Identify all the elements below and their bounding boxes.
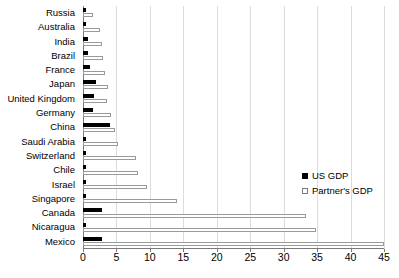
bar-us-gdp: [83, 223, 86, 227]
bar-partner-gdp: [83, 128, 115, 132]
category-label: Japan: [49, 77, 75, 91]
category-label: China: [50, 120, 75, 134]
legend-item: Partner's GDP: [302, 184, 373, 197]
bar-us-gdp: [83, 80, 96, 84]
category-label: Canada: [42, 206, 75, 220]
x-axis-tick-label: 30: [278, 251, 290, 263]
plot-area: [83, 6, 384, 249]
x-axis-tick-labels: 051015202530354045: [83, 251, 384, 267]
bar-us-gdp: [83, 22, 86, 26]
bar-row: [83, 120, 384, 134]
category-label: United Kingdom: [7, 92, 75, 106]
category-label: Russia: [46, 6, 75, 20]
category-label: Israel: [52, 178, 75, 192]
bar-us-gdp: [83, 165, 86, 169]
bar-partner-gdp: [83, 214, 306, 218]
category-label: France: [45, 63, 75, 77]
bar-row: [83, 135, 384, 149]
bar-partner-gdp: [83, 156, 136, 160]
bar-partner-gdp: [83, 13, 93, 17]
horizontal-bar-chart: RussiaAustraliaIndiaBrazilFranceJapanUni…: [0, 0, 399, 278]
x-axis-tick-label: 35: [311, 251, 323, 263]
category-label: Germany: [36, 106, 75, 120]
bar-partner-gdp: [83, 28, 100, 32]
open-square-icon: [302, 188, 308, 194]
category-label: Saudi Arabia: [21, 135, 75, 149]
bar-partner-gdp: [83, 85, 108, 89]
bar-us-gdp: [83, 123, 110, 127]
bar-partner-gdp: [83, 42, 102, 46]
category-label: Switzerland: [26, 149, 75, 163]
bar-row: [83, 6, 384, 20]
bar-us-gdp: [83, 37, 88, 41]
bar-us-gdp: [83, 237, 102, 241]
bar-row: [83, 206, 384, 220]
bar-partner-gdp: [83, 99, 107, 103]
bar-row: [83, 235, 384, 249]
bar-row: [83, 106, 384, 120]
x-axis-tick-label: 40: [345, 251, 357, 263]
category-label: Brazil: [51, 49, 75, 63]
legend-label: Partner's GDP: [312, 185, 373, 196]
bar-row: [83, 220, 384, 234]
bar-us-gdp: [83, 208, 102, 212]
bar-partner-gdp: [83, 142, 118, 146]
category-label: India: [54, 35, 75, 49]
x-axis-tick-label: 0: [80, 251, 86, 263]
x-axis-tick-label: 20: [211, 251, 223, 263]
category-label: Australia: [38, 20, 75, 34]
bar-us-gdp: [83, 194, 86, 198]
bar-row: [83, 35, 384, 49]
bar-us-gdp: [83, 8, 86, 12]
category-label: Singapore: [32, 192, 75, 206]
bar-row: [83, 20, 384, 34]
category-label: Mexico: [45, 235, 75, 249]
bar-us-gdp: [83, 151, 86, 155]
x-axis-tick-label: 25: [244, 251, 256, 263]
bar-partner-gdp: [83, 199, 177, 203]
bar-rows: [83, 6, 384, 249]
bar-us-gdp: [83, 108, 93, 112]
bar-us-gdp: [83, 180, 86, 184]
legend-label: US GDP: [312, 170, 348, 181]
x-axis-tick-label: 45: [378, 251, 390, 263]
bar-us-gdp: [83, 137, 86, 141]
x-axis-tick-label: 15: [177, 251, 189, 263]
bar-row: [83, 92, 384, 106]
category-label: Nicaragua: [32, 220, 75, 234]
bar-partner-gdp: [83, 71, 105, 75]
category-label: Chile: [53, 163, 75, 177]
x-axis-tick-label: 5: [114, 251, 120, 263]
legend-item: US GDP: [302, 169, 373, 182]
y-axis-category-labels: RussiaAustraliaIndiaBrazilFranceJapanUni…: [0, 6, 78, 249]
bar-row: [83, 49, 384, 63]
bar-partner-gdp: [83, 228, 316, 232]
bar-partner-gdp: [83, 56, 103, 60]
bar-partner-gdp: [83, 171, 138, 175]
bar-row: [83, 77, 384, 91]
bar-us-gdp: [83, 94, 94, 98]
x-axis-tick-label: 10: [144, 251, 156, 263]
bar-partner-gdp: [83, 185, 147, 189]
bar-us-gdp: [83, 51, 88, 55]
bar-us-gdp: [83, 65, 90, 69]
bar-partner-gdp: [83, 113, 111, 117]
chart-legend: US GDPPartner's GDP: [302, 169, 373, 199]
bar-partner-gdp: [83, 242, 384, 246]
filled-square-icon: [302, 173, 308, 179]
bar-row: [83, 63, 384, 77]
bar-row: [83, 149, 384, 163]
gridline: [384, 6, 385, 249]
